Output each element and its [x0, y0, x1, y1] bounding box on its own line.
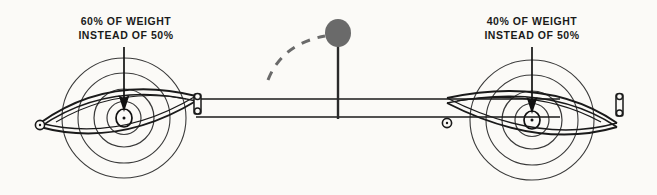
shift-knob	[325, 19, 351, 47]
left-shackle	[194, 94, 201, 115]
weight-distribution-figure: 60% OF WEIGHT INSTEAD OF 50% 40% OF WEIG…	[0, 0, 657, 195]
right-spring-eye	[442, 118, 451, 127]
callout-right-weight: 40% OF WEIGHT INSTEAD OF 50%	[442, 15, 622, 42]
motion-arc-dashed	[268, 36, 325, 80]
callout-left-line1: 60% OF WEIGHT	[81, 15, 172, 27]
callout-left-line2: INSTEAD OF 50%	[36, 29, 216, 43]
frame-rail	[196, 99, 560, 117]
right-shackle	[616, 94, 623, 117]
callout-right-line2: INSTEAD OF 50%	[442, 29, 622, 43]
callout-left-weight: 60% OF WEIGHT INSTEAD OF 50%	[36, 15, 216, 42]
left-spring-eye	[35, 120, 44, 129]
callout-right-line1: 40% OF WEIGHT	[487, 15, 578, 27]
